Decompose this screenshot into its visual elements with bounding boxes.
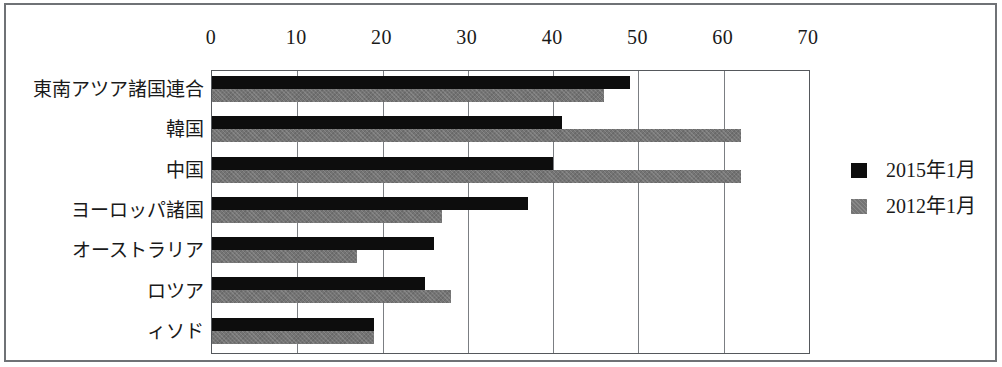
x-axis-tick-labels: 010203040506070 bbox=[0, 26, 1002, 50]
x-tick-label-70: 70 bbox=[786, 26, 830, 48]
bar bbox=[212, 129, 741, 142]
category-label: 韓国 bbox=[8, 119, 204, 141]
legend-label: 2012年1月 bbox=[886, 195, 976, 217]
bars-layer bbox=[212, 71, 809, 353]
bar bbox=[212, 237, 434, 250]
x-tick-label-20: 20 bbox=[360, 26, 404, 48]
x-tick-label-50: 50 bbox=[615, 26, 659, 48]
category-label: ヨーロッパ諸国 bbox=[8, 200, 204, 222]
x-tick-label-30: 30 bbox=[445, 26, 489, 48]
gray-square-swatch bbox=[851, 199, 867, 214]
bar-group bbox=[212, 192, 809, 232]
x-tick-label-40: 40 bbox=[530, 26, 574, 48]
bar-group bbox=[212, 111, 809, 151]
bar-group bbox=[212, 313, 809, 353]
x-tick-label-60: 60 bbox=[701, 26, 745, 48]
bar bbox=[212, 116, 562, 129]
legend-label: 2015年1月 bbox=[886, 159, 976, 181]
bar bbox=[212, 157, 553, 170]
bar bbox=[212, 210, 442, 223]
y-axis-category-labels: 東南アツア諸国連合韓国中国ヨーロッパ諸国オーストラリアロツアィソド bbox=[8, 70, 204, 352]
bar bbox=[212, 290, 451, 303]
bar-chart-figure: 010203040506070 東南アツア諸国連合韓国中国ヨーロッパ諸国オースト… bbox=[0, 0, 1002, 367]
x-tick-label-10: 10 bbox=[274, 26, 318, 48]
legend-item: 2012年1月 bbox=[851, 188, 991, 224]
bar-group bbox=[212, 272, 809, 312]
category-label: ロツア bbox=[8, 281, 204, 303]
bar bbox=[212, 76, 630, 89]
plot-area bbox=[211, 70, 810, 354]
bar bbox=[212, 318, 374, 331]
bar-group bbox=[212, 232, 809, 272]
category-label: 中国 bbox=[8, 160, 204, 182]
category-label: オーストラリア bbox=[8, 240, 204, 262]
legend-item: 2015年1月 bbox=[851, 152, 991, 188]
category-label: ィソド bbox=[8, 321, 204, 343]
bar bbox=[212, 170, 741, 183]
category-label: 東南アツア諸国連合 bbox=[8, 79, 204, 101]
bar-group bbox=[212, 71, 809, 111]
chart-legend: 2015年1月2012年1月 bbox=[851, 152, 991, 224]
bar bbox=[212, 250, 357, 263]
x-tick-label-0: 0 bbox=[189, 26, 233, 48]
bar bbox=[212, 277, 425, 290]
bar-group bbox=[212, 152, 809, 192]
bar bbox=[212, 197, 528, 210]
bar bbox=[212, 89, 604, 102]
bar bbox=[212, 331, 374, 344]
black-square-swatch bbox=[851, 163, 867, 178]
